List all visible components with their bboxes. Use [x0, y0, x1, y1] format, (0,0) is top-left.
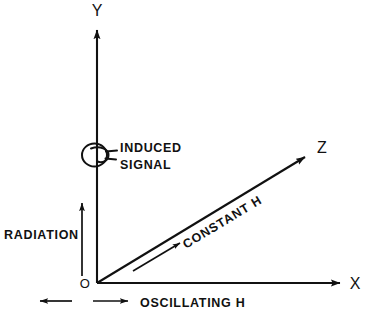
z-axis-line [97, 157, 305, 283]
coil-inner-turn [91, 147, 109, 162]
diagram-canvas: Y X Z O INDUCED SIGNAL RADIATIO [0, 0, 373, 317]
radiation-label: RADIATION [4, 228, 79, 242]
coil-lead-lower [106, 159, 117, 160]
radiation-annotation: RADIATION [4, 203, 82, 276]
constant-field-annotation: CONSTANT H [133, 193, 265, 271]
coordinate-diagram: Y X Z O INDUCED SIGNAL RADIATIO [0, 0, 373, 317]
oscillating-field-annotation: OSCILLATING H [40, 296, 245, 310]
induced-signal-line1: INDUCED [120, 141, 182, 155]
induced-signal-label: INDUCED SIGNAL [120, 141, 182, 172]
z-axis-label: Z [317, 139, 327, 156]
origin-label: O [80, 276, 91, 291]
coil-lead-upper [106, 151, 117, 152]
induced-signal-line2: SIGNAL [120, 158, 171, 172]
constant-field-label: CONSTANT H [180, 193, 264, 252]
coil-icon [82, 144, 117, 167]
oscillating-field-label: OSCILLATING H [140, 296, 245, 310]
x-axis: X [97, 275, 361, 292]
y-axis: Y [92, 2, 103, 283]
y-axis-label: Y [92, 2, 103, 19]
x-axis-label: X [350, 275, 361, 292]
